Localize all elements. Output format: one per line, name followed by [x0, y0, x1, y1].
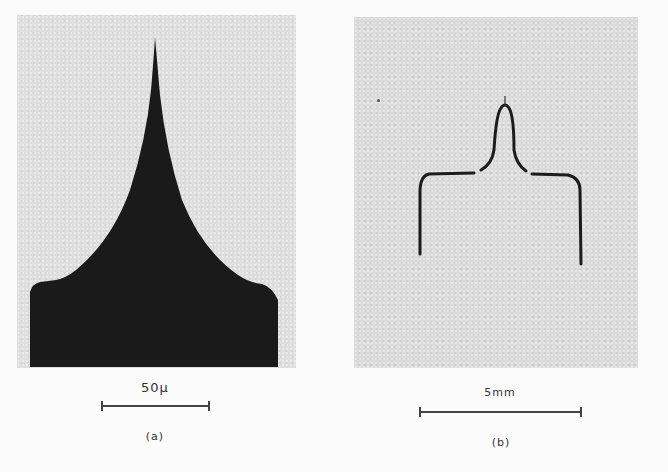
scale-bar-label-b: 5mm [470, 386, 530, 399]
scale-bar-label-a: 50μ [130, 380, 180, 395]
hairpin-wire [420, 105, 581, 264]
scale-bar-a [101, 405, 210, 407]
scale-bar-b [419, 411, 582, 413]
panel-label-b: (b) [481, 436, 521, 449]
tip-silhouette [30, 37, 278, 367]
panel-label-a: (a) [135, 430, 175, 443]
dust-speck [377, 99, 380, 102]
